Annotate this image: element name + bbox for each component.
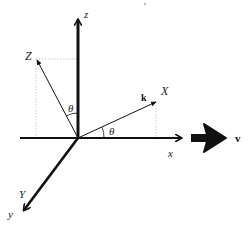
label-top-mark: ,	[144, 0, 146, 6]
y-axis	[24, 138, 78, 210]
label-z: z	[83, 8, 89, 20]
velocity-arrow-icon	[191, 124, 226, 152]
projection-lines	[36, 59, 156, 138]
label-Z: Z	[25, 49, 32, 63]
label-theta-upper: θ	[68, 102, 74, 114]
label-k: k	[141, 92, 147, 103]
theta-arc-lower	[102, 127, 104, 138]
label-X: X	[160, 84, 169, 98]
X-rotated-axis	[78, 102, 156, 138]
label-v: v	[235, 132, 241, 144]
label-Y: Y	[19, 188, 27, 200]
Z-rotated-axis	[37, 60, 78, 138]
label-theta-lower: θ	[109, 125, 115, 137]
label-y: y	[7, 208, 13, 220]
coordinate-diagram: z , Z k X θ θ x v Y y	[0, 0, 249, 230]
label-x: x	[167, 147, 173, 159]
